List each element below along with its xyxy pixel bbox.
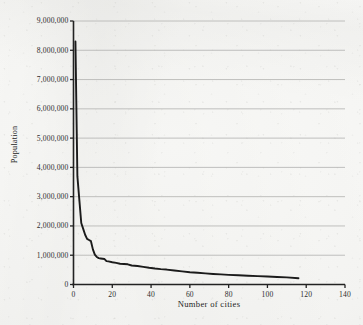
horizontal-gridlines [74, 21, 346, 255]
population-vs-cities-chart: Population Number of cities 01,000,0002,… [0, 0, 363, 325]
population-curve [75, 41, 298, 278]
plot-area [0, 0, 363, 325]
